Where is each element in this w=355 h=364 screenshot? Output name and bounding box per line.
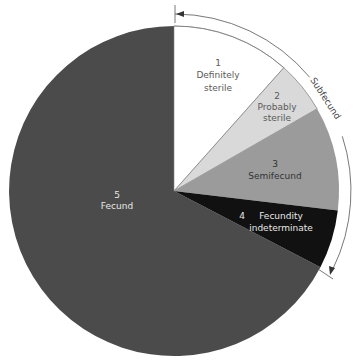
slice-4-label-line2: indeterminate <box>249 223 313 233</box>
slice-3-label: Semifecund <box>248 171 301 181</box>
arrowhead-bottom-icon <box>329 266 335 275</box>
pie-chart: Subfecund 1 Definitely sterile 2 Probabl… <box>0 0 355 364</box>
slice-1-label-line2: sterile <box>204 83 232 93</box>
slice-5-number: 5 <box>114 190 120 200</box>
slice-3-number: 3 <box>272 159 278 169</box>
slice-4-number: 4 <box>239 211 245 221</box>
slice-2-label-line2: sterile <box>263 113 291 123</box>
slice-5-label: Fecund <box>101 201 133 211</box>
arrowhead-top-icon <box>176 11 184 17</box>
slice-1-label-line1: Definitely <box>196 70 240 80</box>
slice-2-number: 2 <box>274 91 280 101</box>
slice-4-label-line1: Fecundity <box>259 211 303 221</box>
slice-1-number: 1 <box>215 58 221 68</box>
slice-2-label-line1: Probably <box>257 102 297 112</box>
